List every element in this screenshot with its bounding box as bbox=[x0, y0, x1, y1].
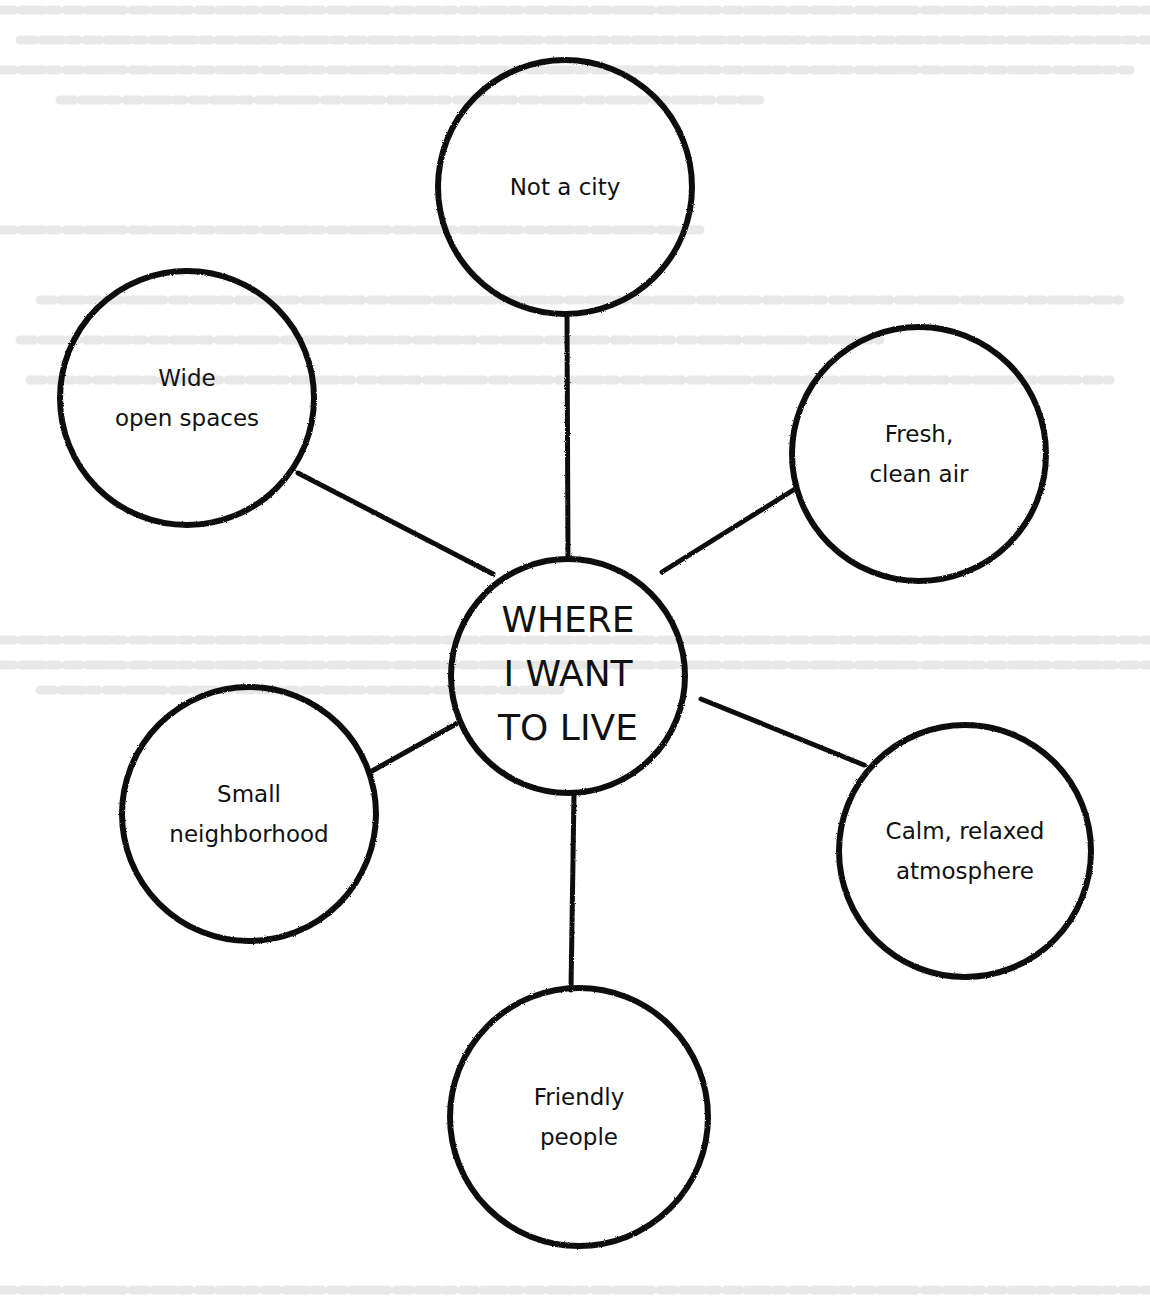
node-label-line: Calm, relaxed bbox=[886, 818, 1045, 844]
connector-fresh-clean-air bbox=[662, 489, 795, 572]
node-label-line: neighborhood bbox=[169, 821, 328, 847]
center-label-line: I WANT bbox=[503, 653, 633, 694]
node-label-line: Not a city bbox=[510, 174, 621, 200]
node-label-line: Small bbox=[217, 781, 281, 807]
mind-map-diagram: WHEREI WANTTO LIVENot a cityWideopen spa… bbox=[0, 0, 1150, 1306]
connector-friendly-people bbox=[571, 794, 574, 990]
node-label-line: atmosphere bbox=[896, 858, 1034, 884]
node-circle-wide-open-spaces bbox=[60, 271, 314, 525]
node-fresh-clean-air: Fresh,clean air bbox=[869, 421, 969, 487]
node-label-line: Wide bbox=[158, 365, 215, 391]
connector-wide-open-spaces bbox=[298, 473, 493, 574]
center-label-line: WHERE bbox=[501, 599, 634, 640]
connector-calm-relaxed-atmosphere bbox=[701, 699, 864, 765]
node-circle-small-neighborhood bbox=[122, 687, 376, 941]
node-label-line: clean air bbox=[869, 461, 969, 487]
connector-not-a-city bbox=[567, 314, 568, 558]
connector-lines bbox=[298, 314, 864, 990]
node-wide-open-spaces: Wideopen spaces bbox=[115, 365, 259, 431]
connector-small-neighborhood bbox=[372, 724, 456, 771]
node-circle-calm-relaxed-atmosphere bbox=[839, 725, 1091, 977]
node-label-line: people bbox=[540, 1124, 618, 1150]
node-labels: WHEREI WANTTO LIVENot a cityWideopen spa… bbox=[115, 174, 1044, 1150]
node-label-line: open spaces bbox=[115, 405, 259, 431]
node-circle-fresh-clean-air bbox=[792, 327, 1046, 581]
node-label-line: Friendly bbox=[534, 1084, 625, 1110]
center-node-label: WHEREI WANTTO LIVE bbox=[497, 599, 638, 748]
node-label-line: Fresh, bbox=[885, 421, 954, 447]
node-friendly-people: Friendlypeople bbox=[534, 1084, 625, 1150]
center-label-line: TO LIVE bbox=[497, 707, 638, 748]
node-small-neighborhood: Smallneighborhood bbox=[169, 781, 328, 847]
node-calm-relaxed-atmosphere: Calm, relaxedatmosphere bbox=[886, 818, 1045, 884]
node-not-a-city: Not a city bbox=[510, 174, 621, 200]
node-circle-friendly-people bbox=[450, 988, 708, 1246]
